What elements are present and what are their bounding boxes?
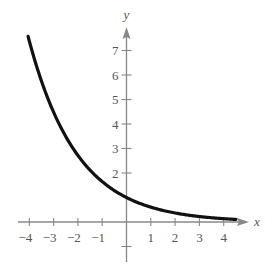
x-tick-label: 2 bbox=[172, 230, 179, 245]
x-tick-label: 4 bbox=[220, 230, 227, 245]
y-tick-label: 5 bbox=[112, 92, 119, 107]
y-axis-label: y bbox=[122, 7, 130, 22]
exponential-decay-chart: −4−3−2−11234234567 x y bbox=[0, 0, 275, 272]
y-tick-label: 6 bbox=[112, 68, 119, 83]
x-tick-label: −3 bbox=[43, 230, 57, 245]
function-curve bbox=[28, 36, 236, 219]
x-tick-label: −2 bbox=[67, 230, 81, 245]
axes bbox=[18, 27, 249, 262]
y-tick-label: 7 bbox=[112, 43, 119, 58]
y-tick-label: 2 bbox=[112, 166, 119, 181]
x-tick-label: −4 bbox=[18, 230, 32, 245]
x-tick-label: 3 bbox=[196, 230, 203, 245]
y-tick-label: 4 bbox=[112, 117, 119, 132]
x-axis-label: x bbox=[253, 214, 260, 229]
y-tick-label: 3 bbox=[112, 141, 119, 156]
x-tick-label: −1 bbox=[91, 230, 105, 245]
x-tick-label: 1 bbox=[148, 230, 155, 245]
